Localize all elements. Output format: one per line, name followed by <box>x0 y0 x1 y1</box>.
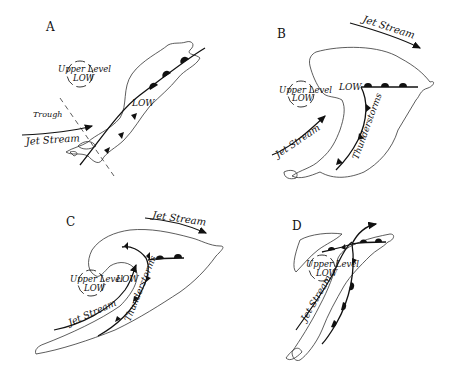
panel-d: D Upper Level LOW Jet Stream <box>286 219 394 361</box>
panel-label-d: D <box>292 219 302 233</box>
low-label-b: LOW <box>338 82 362 92</box>
cloud-outline-c <box>35 229 222 354</box>
panel-label-c: C <box>66 215 75 229</box>
svg-text:LOW: LOW <box>291 93 315 103</box>
low-label-a: LOW <box>131 98 155 108</box>
panel-a: A Upper Level LOW Trough Jet Stream LOW <box>22 20 205 176</box>
warm-front-d <box>352 242 386 244</box>
svg-text:LOW: LOW <box>83 283 107 293</box>
thunderstorms-label-b: Thunderstorms <box>350 91 383 160</box>
thunderstorms-label-c: Thunderstorms <box>123 254 159 323</box>
jet-stream-label-b-left: Jet Stream <box>271 122 321 161</box>
panel-c: C Jet Stream Upper Level LOW LOW Jet Str… <box>35 209 222 354</box>
panel-label-b: B <box>277 27 286 41</box>
jet-stream-label-b-top: Jet Stream <box>359 13 416 41</box>
low-label-c: LOW <box>115 274 139 284</box>
cloud-outline-b <box>292 47 434 177</box>
trough-label: Trough <box>33 110 62 119</box>
panel-label-a: A <box>45 20 55 34</box>
svg-text:LOW: LOW <box>72 73 96 83</box>
panel-b: B Jet Stream Upper Level LOW Jet Stream … <box>271 13 433 179</box>
cyclone-stages-diagram: A Upper Level LOW Trough Jet Stream LOW … <box>0 0 454 376</box>
jet-stream-label-c-top: Jet Stream <box>150 209 207 228</box>
